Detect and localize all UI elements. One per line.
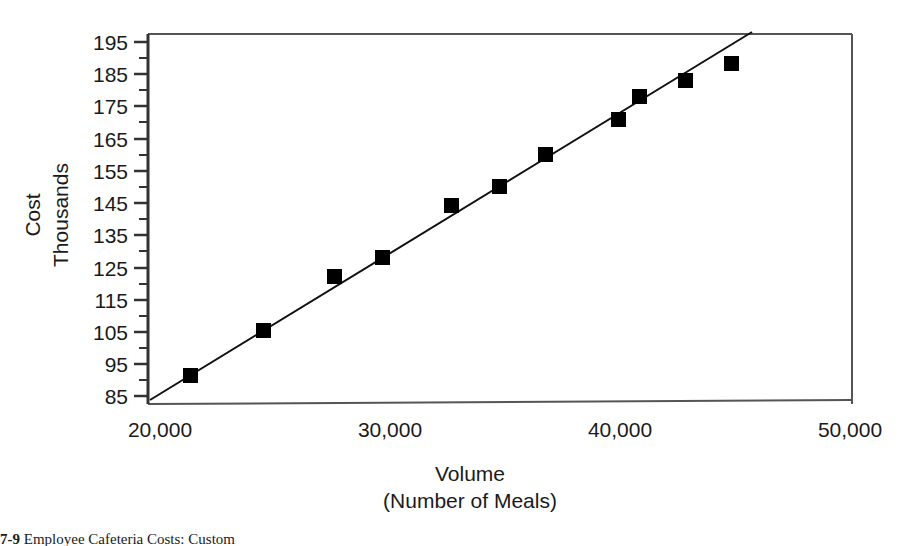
x-axis-title-main: Volume [435,462,505,485]
figure-caption-text: Employee Cafeteria Costs: Custom [24,531,235,546]
y-tick-label: 155 [93,160,128,183]
data-point-marker [538,147,553,162]
x-tick-label: 30,000 [358,418,422,441]
plot-frame [148,34,852,404]
y-tick-label: 185 [93,63,128,86]
data-point-marker [724,56,739,71]
y-tick-label: 135 [93,224,128,247]
data-point-marker [375,250,390,265]
figure-caption-number: 7-9 [0,531,20,546]
y-axis-title-sub: Thousands [49,163,72,267]
x-axis-tick-labels: 20,000 30,000 40,000 50,000 [128,418,882,441]
data-point-marker [492,179,507,194]
x-tick-label: 40,000 [588,418,652,441]
y-tick-label: 175 [93,95,128,118]
data-point-marker [678,73,693,88]
y-tick-label: 85 [105,385,128,408]
y-tick-label: 145 [93,192,128,215]
x-axis-title-sub: (Number of Meals) [383,489,557,512]
data-point-marker [611,112,626,127]
x-axis-title: Volume (Number of Meals) [383,462,557,512]
y-tick-label: 115 [95,289,128,312]
y-tick-label: 105 [93,321,128,344]
data-points [183,56,739,383]
cost-volume-scatter-chart: 195 185 175 165 155 145 135 125 115 105 … [0,0,902,546]
figure-caption: 7-9 Employee Cafeteria Costs: Custom [0,530,902,546]
trend-line [150,32,752,400]
y-tick-label: 95 [105,353,128,376]
y-axis-tick-labels: 195 185 175 165 155 145 135 125 115 105 … [93,31,128,408]
data-point-marker [444,198,459,213]
data-point-marker [256,323,271,338]
y-tick-label: 165 [93,128,128,151]
y-tick-label: 125 [93,257,128,280]
y-axis-title-main: Cost [21,193,44,236]
data-point-marker [632,89,647,104]
y-tick-label: 195 [93,31,128,54]
data-point-marker [327,269,342,284]
figure-container: 195 185 175 165 155 145 135 125 115 105 … [0,0,902,546]
x-tick-label: 50,000 [818,418,882,441]
x-tick-label: 20,000 [128,418,192,441]
data-point-marker [183,368,198,383]
y-axis-title: Cost Thousands [21,163,72,267]
